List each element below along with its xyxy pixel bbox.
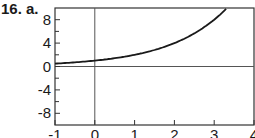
x-tick-label: 2 [170,126,178,138]
y-tick-label: -4 [38,81,51,98]
x-tick-label: -1 [48,126,61,138]
function-curve [55,9,226,64]
x-tick-label: 0 [91,126,99,138]
y-tick-label: -8 [38,104,51,121]
x-tick-label: 1 [130,126,138,138]
y-tick-label: 4 [43,34,51,51]
y-tick-label: 8 [43,11,51,28]
x-tick-label: 3 [210,126,218,138]
y-tick-label: 0 [43,58,51,75]
x-tick-label: 4 [250,126,255,138]
function-graph: -8-4048-101234 [0,0,255,138]
